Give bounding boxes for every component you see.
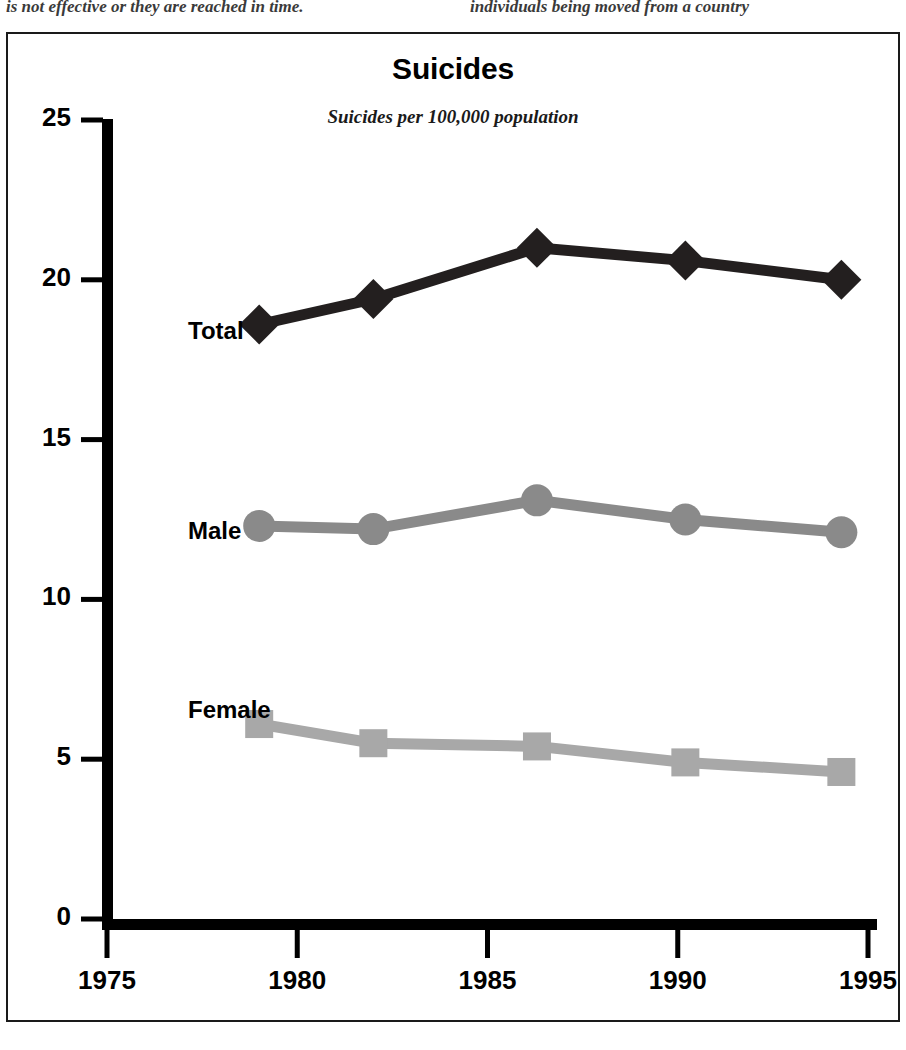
x-tick-label-1985: 1985 bbox=[418, 965, 558, 996]
y-tick-label-25: 25 bbox=[8, 102, 71, 133]
y-tick-15 bbox=[81, 437, 103, 442]
x-tick-1975 bbox=[105, 930, 110, 958]
series-label-total: Total bbox=[188, 317, 244, 345]
y-tick-label-10: 10 bbox=[8, 581, 71, 612]
y-tick-20 bbox=[81, 277, 103, 282]
x-tick-1990 bbox=[675, 930, 680, 958]
x-tick-1980 bbox=[295, 930, 300, 958]
series-line-total bbox=[259, 248, 841, 325]
data-point-female-2[interactable] bbox=[523, 732, 551, 760]
y-tick-label-0: 0 bbox=[8, 901, 71, 932]
page-bleed-text-left: is not effective or they are reached in … bbox=[6, 0, 436, 20]
data-point-male-4[interactable] bbox=[825, 516, 857, 548]
data-point-female-4[interactable] bbox=[827, 758, 855, 786]
data-point-male-2[interactable] bbox=[521, 484, 553, 516]
series-female bbox=[245, 710, 855, 786]
data-point-total-0[interactable] bbox=[239, 305, 279, 345]
data-point-total-2[interactable] bbox=[517, 228, 557, 268]
y-tick-label-5: 5 bbox=[8, 741, 71, 772]
series-layer bbox=[239, 228, 861, 786]
data-point-male-0[interactable] bbox=[243, 510, 275, 542]
x-tick-label-1990: 1990 bbox=[608, 965, 748, 996]
x-tick-label-1980: 1980 bbox=[227, 965, 367, 996]
data-point-female-1[interactable] bbox=[359, 729, 387, 757]
data-point-total-4[interactable] bbox=[821, 260, 861, 300]
y-tick-label-20: 20 bbox=[8, 262, 71, 293]
page-bleed-text-right: individuals being moved from a country bbox=[470, 0, 906, 20]
x-axis-spine bbox=[102, 919, 877, 930]
data-point-total-1[interactable] bbox=[353, 279, 393, 319]
series-male bbox=[243, 484, 857, 548]
y-tick-10 bbox=[81, 597, 103, 602]
y-tick-25 bbox=[81, 118, 103, 123]
y-tick-5 bbox=[81, 757, 103, 762]
data-point-female-3[interactable] bbox=[671, 748, 699, 776]
x-tick-label-1995: 1995 bbox=[798, 965, 906, 996]
y-tick-0 bbox=[81, 917, 103, 922]
x-tick-1985 bbox=[485, 930, 490, 958]
series-label-male: Male bbox=[188, 517, 241, 545]
data-point-male-1[interactable] bbox=[357, 513, 389, 545]
y-tick-label-15: 15 bbox=[8, 422, 71, 453]
series-total bbox=[239, 228, 861, 345]
data-point-male-3[interactable] bbox=[669, 504, 701, 536]
data-point-total-3[interactable] bbox=[665, 241, 705, 281]
chart-canvas bbox=[8, 34, 902, 1024]
series-label-female: Female bbox=[188, 696, 271, 724]
x-tick-1995 bbox=[866, 930, 871, 958]
y-axis-spine bbox=[102, 119, 113, 929]
figure-frame: Suicides Suicides per 100,000 population… bbox=[6, 32, 900, 1022]
plot-surface bbox=[8, 34, 902, 1024]
x-tick-label-1975: 1975 bbox=[37, 965, 177, 996]
